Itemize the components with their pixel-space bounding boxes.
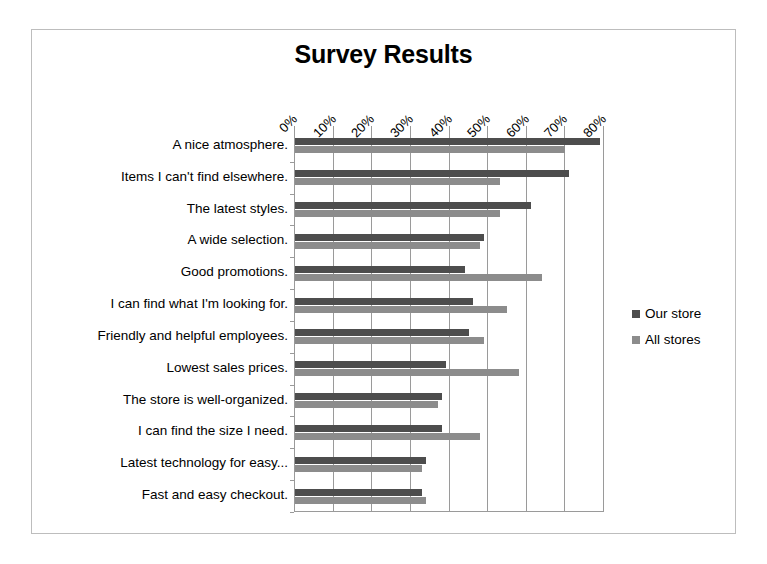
chart-bar (295, 457, 426, 464)
chart-bar (295, 497, 426, 504)
y-axis-category-label: A wide selection. (48, 232, 288, 247)
chart-bar (295, 210, 500, 217)
chart-bar (295, 274, 542, 281)
chart-bar (295, 138, 600, 145)
chart-bar (295, 401, 438, 408)
chart-title: Survey Results (32, 40, 735, 69)
y-tick-mark (290, 512, 294, 513)
chart-legend: Our storeAll stores (632, 306, 701, 358)
chart-category-row: A wide selection. (294, 226, 603, 258)
chart-bar (295, 489, 422, 496)
x-gridline (603, 130, 604, 512)
y-axis-category-label: The latest styles. (48, 201, 288, 216)
chart-bar (295, 234, 484, 241)
y-axis-category-label: Friendly and helpful employees. (48, 328, 288, 343)
x-tick-mark (603, 126, 604, 130)
chart-category-row: Fast and easy checkout. (294, 480, 603, 512)
y-axis-category-label: Latest technology for easy... (48, 455, 288, 470)
y-axis-category-label: I can find what I'm looking for. (48, 296, 288, 311)
chart-category-row: Friendly and helpful employees. (294, 321, 603, 353)
chart-category-row: The latest styles. (294, 194, 603, 226)
chart-category-row: Latest technology for easy... (294, 448, 603, 480)
chart-bar (295, 425, 442, 432)
chart-bar (295, 329, 469, 336)
chart-container: Survey Results 0%10%20%30%40%50%60%70%80… (31, 29, 736, 534)
y-axis-category-label: Items I can't find elsewhere. (48, 169, 288, 184)
y-axis-category-label: A nice atmosphere. (48, 137, 288, 152)
chart-bar (295, 242, 480, 249)
chart-bar (295, 433, 480, 440)
plot-area: A nice atmosphere.Items I can't find els… (294, 130, 603, 512)
chart-bar (295, 178, 500, 185)
chart-category-row: I can find what I'm looking for. (294, 289, 603, 321)
y-axis-category-label: The store is well-organized. (48, 392, 288, 407)
chart-bar (295, 361, 446, 368)
legend-swatch-icon (632, 310, 640, 318)
y-axis-category-label: Lowest sales prices. (48, 360, 288, 375)
chart-category-row: The store is well-organized. (294, 385, 603, 417)
chart-bar (295, 202, 531, 209)
y-axis-category-label: Fast and easy checkout. (48, 487, 288, 502)
chart-bar (295, 306, 507, 313)
chart-bar (295, 298, 473, 305)
chart-bar (295, 146, 565, 153)
legend-label: Our store (645, 306, 701, 321)
chart-category-row: Lowest sales prices. (294, 353, 603, 385)
chart-category-row: A nice atmosphere. (294, 130, 603, 162)
chart-bar (295, 337, 484, 344)
chart-bar (295, 465, 422, 472)
chart-bar (295, 393, 442, 400)
chart-bar (295, 266, 465, 273)
chart-category-row: Items I can't find elsewhere. (294, 162, 603, 194)
legend-item[interactable]: All stores (632, 332, 701, 347)
y-axis-category-label: I can find the size I need. (48, 423, 288, 438)
legend-item[interactable]: Our store (632, 306, 701, 321)
legend-swatch-icon (632, 336, 640, 344)
chart-category-row: I can find the size I need. (294, 417, 603, 449)
chart-bar (295, 369, 519, 376)
chart-category-row: Good promotions. (294, 257, 603, 289)
chart-bar (295, 170, 569, 177)
legend-label: All stores (645, 332, 701, 347)
y-axis-category-label: Good promotions. (48, 264, 288, 279)
